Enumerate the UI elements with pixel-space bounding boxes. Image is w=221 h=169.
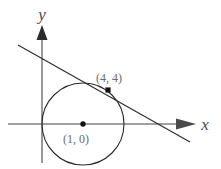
arrow-up-icon	[37, 25, 48, 40]
geometry-figure: y x (4, 4) (1, 0)	[0, 0, 221, 169]
tangent-line	[18, 45, 190, 142]
center-point-label: (1, 0)	[63, 132, 89, 146]
center-point-marker	[80, 121, 85, 126]
y-axis-label: y	[36, 5, 46, 24]
arrow-right-icon	[176, 119, 196, 130]
coordinate-plane-diagram: y x (4, 4) (1, 0)	[0, 0, 221, 169]
x-axis-label: x	[200, 115, 209, 134]
tangent-point-label: (4, 4)	[96, 71, 122, 85]
tangent-point-marker	[105, 87, 110, 92]
